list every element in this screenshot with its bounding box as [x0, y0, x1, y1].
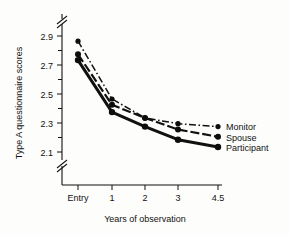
series-markers-monitor [75, 39, 220, 130]
y-tick-marks [57, 36, 62, 152]
chart-figure: 2.9 2.7 2.5 2.3 2.1 Entry 1 2 3 4.5 Type… [0, 0, 290, 235]
x-tick-label-4-5: 4.5 [212, 193, 225, 203]
x-tick-label-1: 1 [109, 193, 114, 203]
line-chart: 2.9 2.7 2.5 2.3 2.1 Entry 1 2 3 4.5 Type… [0, 0, 290, 235]
y-tick-label-2-7: 2.7 [40, 61, 53, 71]
x-tick-label-2: 2 [142, 193, 147, 203]
y-tick-label-2-1: 2.1 [40, 148, 53, 158]
y-tick-label-2-9: 2.9 [40, 32, 53, 42]
series-label-participant: Participant [226, 143, 269, 153]
x-tick-label-entry: Entry [67, 193, 89, 203]
x-tick-marks [78, 185, 218, 190]
y-tick-label-2-3: 2.3 [40, 119, 53, 129]
y-axis-title: Type A questionnaire scores [14, 46, 24, 159]
x-tick-label-3: 3 [175, 193, 180, 203]
series-label-spouse: Spouse [226, 133, 257, 143]
y-tick-label-2-5: 2.5 [40, 90, 53, 100]
series-line-spouse [78, 54, 218, 137]
series-markers-participant [75, 57, 221, 150]
x-axis-title: Years of observation [104, 214, 186, 224]
series-label-monitor: Monitor [226, 122, 256, 132]
